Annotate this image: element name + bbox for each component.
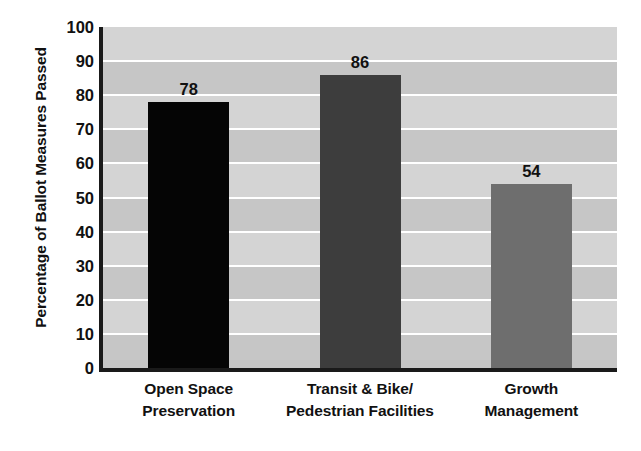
y-tick-label-40: 40 (52, 223, 94, 240)
y-tick-label-100: 100 (52, 19, 94, 36)
x-category-label-line2: Preservation (103, 400, 274, 422)
y-tick-label-70: 70 (52, 121, 94, 138)
bar-2[interactable] (320, 75, 401, 368)
bar-3[interactable] (491, 184, 572, 368)
bar-chart-figure: Percentage of Ballot Measures Passed 100… (0, 0, 641, 451)
y-tick-label-10: 10 (52, 326, 94, 343)
x-axis-category-labels: Open SpacePreservationTransit & Bike/Ped… (99, 378, 617, 438)
x-category-label-line1: Open Space (144, 380, 233, 397)
x-category-label-3: GrowthManagement (446, 378, 617, 423)
y-tick-label-60: 60 (52, 155, 94, 172)
y-tick-label-80: 80 (52, 87, 94, 104)
bar-value-label-1: 78 (149, 81, 229, 98)
bar-value-label-3: 54 (491, 163, 571, 180)
x-category-label-line1: Growth (504, 380, 558, 397)
y-tick-label-0: 0 (52, 360, 94, 377)
plot-inner: 788654 (103, 27, 617, 368)
x-category-label-line1: Transit & Bike/ (307, 380, 413, 397)
plot-area: 788654 (99, 27, 617, 372)
y-tick-label-20: 20 (52, 292, 94, 309)
bar-1[interactable] (148, 102, 229, 368)
bar-value-label-2: 86 (320, 54, 400, 71)
y-tick-label-30: 30 (52, 257, 94, 274)
x-category-label-2: Transit & Bike/Pedestrian Facilities (274, 378, 445, 423)
y-axis-tick-labels: 1009080706050403020100 (52, 27, 94, 371)
x-category-label-line2: Management (446, 400, 617, 422)
y-tick-label-90: 90 (52, 53, 94, 70)
y-tick-label-50: 50 (52, 189, 94, 206)
x-category-label-1: Open SpacePreservation (103, 378, 274, 423)
x-category-label-line2: Pedestrian Facilities (274, 400, 445, 422)
